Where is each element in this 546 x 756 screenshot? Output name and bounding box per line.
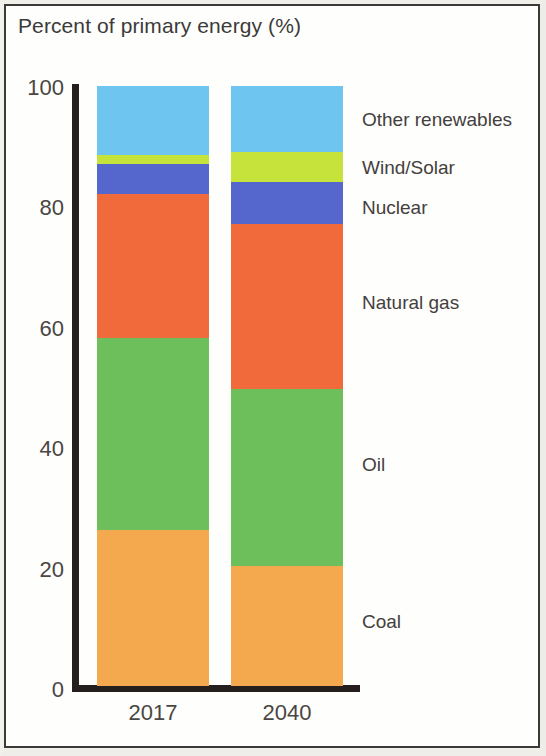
y-tick-label: 40: [40, 436, 64, 462]
chart-figure: Percent of primary energy (%) 1008060402…: [0, 0, 546, 756]
bar-segment-other-renewables[interactable]: [231, 86, 343, 152]
bar-segment-oil[interactable]: [97, 338, 209, 530]
bar-segment-coal[interactable]: [97, 530, 209, 686]
bar-segment-other-renewables[interactable]: [97, 86, 209, 155]
y-tick-label: 80: [40, 195, 64, 221]
bar-segment-coal[interactable]: [231, 566, 343, 686]
y-axis-tick-labels: 100806040200: [8, 0, 64, 756]
bar-group: [79, 86, 360, 686]
legend-label-coal: Coal: [362, 611, 401, 633]
y-tick-label: 0: [52, 677, 64, 703]
bar-segment-wind-solar[interactable]: [231, 152, 343, 182]
stacked-bar-2017[interactable]: [97, 86, 209, 686]
legend-label-wind-solar: Wind/Solar: [362, 157, 455, 179]
legend-label-nuclear: Nuclear: [362, 197, 427, 219]
bar-segment-natural-gas[interactable]: [97, 194, 209, 338]
bar-segment-wind-solar[interactable]: [97, 155, 209, 164]
y-tick-label: 60: [40, 316, 64, 342]
legend-label-oil: Oil: [362, 454, 385, 476]
legend-label-natural-gas: Natural gas: [362, 292, 459, 314]
y-tick-label: 100: [27, 75, 64, 101]
y-tick-label: 20: [40, 557, 64, 583]
bar-segment-natural-gas[interactable]: [231, 224, 343, 389]
stacked-bar-2040[interactable]: [231, 86, 343, 686]
y-axis-line: [72, 84, 79, 692]
bar-segment-oil[interactable]: [231, 389, 343, 566]
bar-segment-nuclear[interactable]: [97, 164, 209, 194]
x-tick-label: 2040: [227, 700, 347, 726]
legend: Other renewablesWind/SolarNuclearNatural…: [362, 0, 542, 756]
x-tick-label: 2017: [93, 700, 213, 726]
legend-label-other-renewables: Other renewables: [362, 109, 512, 131]
x-axis-line: [72, 685, 360, 692]
bar-segment-nuclear[interactable]: [231, 182, 343, 224]
